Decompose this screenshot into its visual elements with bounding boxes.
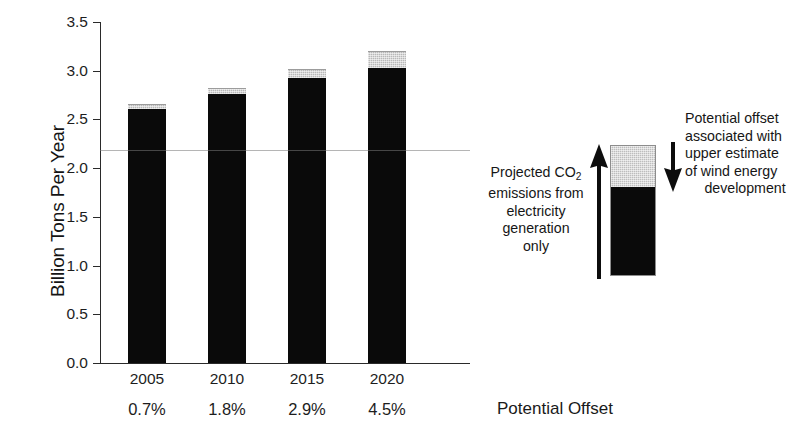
bar-segment-emissions (208, 94, 246, 363)
bar-segment-offset (208, 88, 246, 94)
legend-right-line-1: Potential offset (685, 110, 779, 126)
legend-left-line-2: emissions from (488, 185, 583, 201)
bar-2015 (288, 70, 326, 363)
bar-segment-offset (288, 69, 326, 78)
legend-left-line-4: generation (502, 220, 569, 236)
legend-left-subscript: 2 (576, 171, 582, 182)
y-axis-tick-label: 1.0 (66, 257, 88, 275)
legend-sample-emissions-segment (611, 187, 655, 275)
y-axis-tick-label: 3.5 (66, 13, 88, 31)
category-label-2020: 2020 (347, 370, 427, 388)
percent-label-2010: 1.8% (187, 400, 267, 419)
arrow-up-icon (588, 142, 610, 279)
legend-right-line-3: upper estimate (685, 145, 779, 161)
legend-right-line-4: of wind energy (685, 163, 777, 179)
x-axis-line (100, 363, 470, 364)
y-axis-tick-label: 2.5 (66, 110, 88, 128)
y-axis-tick-label: 2.0 (66, 159, 88, 177)
legend-sample-bar (610, 145, 656, 276)
y-axis-tick-label: 0.5 (66, 305, 88, 323)
y-axis-tick-label: 1.5 (66, 208, 88, 226)
category-label-2010: 2010 (187, 370, 267, 388)
bar-segment-emissions (288, 78, 326, 363)
percent-label-2015: 2.9% (267, 400, 347, 419)
y-axis-tick (93, 363, 101, 364)
legend-left-line-3: electricity (506, 203, 565, 219)
bar-segment-offset (128, 104, 166, 109)
legend-sample-offset-segment (611, 146, 655, 187)
plot-area: 3.53.02.52.01.51.00.50.0 (100, 22, 470, 363)
bar-2010 (208, 89, 246, 363)
legend-left-line-5: only (523, 238, 549, 254)
arrow-down-icon (662, 142, 684, 194)
category-label-2005: 2005 (107, 370, 187, 388)
chart-figure: Billion Tons Per Year 3.53.02.52.01.51.0… (0, 0, 803, 445)
bar-segment-offset (368, 51, 406, 68)
bar-2005 (128, 105, 166, 363)
y-axis-tick-label: 3.0 (66, 62, 88, 80)
y-axis-tick-label: 0.0 (66, 354, 88, 372)
legend-right-line-2: associated with (685, 128, 782, 144)
bar-segment-emissions (128, 109, 166, 363)
percent-label-2005: 0.7% (107, 400, 187, 419)
bar-2020 (368, 52, 406, 363)
x-axis-caption: Potential Offset (497, 399, 613, 419)
bars-container (100, 22, 470, 363)
percent-label-2020: 4.5% (347, 400, 427, 419)
legend-left-line-1: Projected CO (491, 164, 576, 180)
legend-label-offset: Potential offset associated with upper e… (685, 110, 803, 198)
legend-right-line-5: development (685, 180, 803, 198)
legend-block: Projected CO2 emissions from electricity… (470, 100, 803, 300)
bar-segment-emissions (368, 68, 406, 363)
category-label-2015: 2015 (267, 370, 347, 388)
legend-label-emissions: Projected CO2 emissions from electricity… (472, 164, 600, 255)
